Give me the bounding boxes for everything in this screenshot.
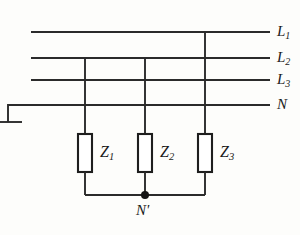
impedance-label-z2-subscript: 2 [169, 151, 174, 162]
impedance-box-z1 [78, 134, 92, 172]
ground-lead [8, 105, 22, 122]
impedance-label-z3-subscript: 3 [229, 151, 234, 162]
star-point-label: N' [136, 203, 149, 218]
bus-label-l1-subscript: 1 [285, 30, 290, 41]
bus-label-n-text: N [277, 96, 287, 112]
impedance-label-z1: Z1 [100, 144, 114, 160]
impedance-box-z3 [198, 134, 212, 172]
star-point-node-dot [141, 191, 149, 199]
bus-label-l3-subscript: 3 [285, 78, 290, 89]
impedance-label-z3: Z3 [220, 144, 234, 160]
circuit-diagram: L1 L2 L3 N Z1 Z2 Z3 N' [0, 0, 300, 235]
bus-label-l1: L1 [277, 24, 290, 39]
circuit-schematic-svg [0, 0, 300, 235]
impedance-label-z2-text: Z [160, 143, 169, 160]
impedance-label-z1-subscript: 1 [109, 151, 114, 162]
impedance-label-z2: Z2 [160, 144, 174, 160]
impedance-box-z2 [138, 134, 152, 172]
bus-label-l3: L3 [277, 72, 290, 87]
impedance-label-z1-text: Z [100, 143, 109, 160]
bus-label-l2-subscript: 2 [285, 56, 290, 67]
bus-label-n: N [277, 97, 287, 112]
bus-label-l2: L2 [277, 50, 290, 65]
impedance-label-z3-text: Z [220, 143, 229, 160]
